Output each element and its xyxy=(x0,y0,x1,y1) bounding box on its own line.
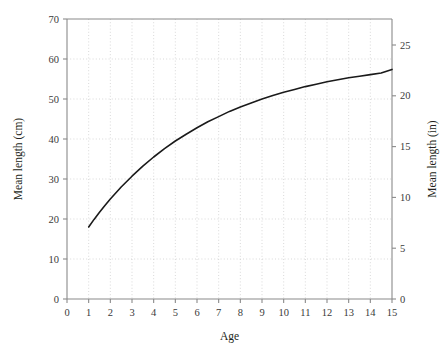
x-tick-label: 4 xyxy=(151,307,157,318)
y-right-tick-label: 0 xyxy=(400,294,405,305)
x-tick-label: 2 xyxy=(108,307,113,318)
y-right-tick-label: 15 xyxy=(400,141,411,152)
y-right-tick-label: 25 xyxy=(400,40,411,51)
x-tick-label: 11 xyxy=(300,307,310,318)
y-left-tick-label: 20 xyxy=(49,214,60,225)
x-axis-title: Age xyxy=(220,330,239,343)
x-tick-label: 6 xyxy=(194,307,199,318)
x-tick-label: 5 xyxy=(173,307,178,318)
x-tick-label: 15 xyxy=(387,307,398,318)
y-right-tick-label: 5 xyxy=(400,243,405,254)
x-tick-label: 3 xyxy=(129,307,134,318)
y-left-tick-label: 70 xyxy=(49,14,60,25)
x-tick-label: 8 xyxy=(238,307,243,318)
y-left-tick-label: 50 xyxy=(49,94,60,105)
y-right-tick-label: 20 xyxy=(400,90,411,101)
x-tick-label: 12 xyxy=(322,307,333,318)
growth-curve-chart: 0123456789101112131415 010203040506070 0… xyxy=(0,0,448,359)
y-axis-left-title: Mean length (cm) xyxy=(12,118,25,201)
x-tick-label: 1 xyxy=(86,307,91,318)
y-left-tick-label: 0 xyxy=(54,294,59,305)
y-axis-right-title: Mean length (in) xyxy=(426,120,439,197)
x-tick-label: 0 xyxy=(64,307,69,318)
chart-figure: 0123456789101112131415 010203040506070 0… xyxy=(0,0,448,359)
x-tick-label: 13 xyxy=(343,307,354,318)
y-left-tick-label: 60 xyxy=(49,54,60,65)
x-tick-label: 10 xyxy=(278,307,289,318)
x-tick-label: 9 xyxy=(259,307,264,318)
y-right-tick-label: 10 xyxy=(400,192,411,203)
y-left-tick-label: 40 xyxy=(49,134,60,145)
x-tick-label: 14 xyxy=(365,307,376,318)
x-tick-label: 7 xyxy=(216,307,221,318)
y-left-tick-label: 10 xyxy=(49,254,60,265)
y-left-tick-label: 30 xyxy=(49,174,60,185)
